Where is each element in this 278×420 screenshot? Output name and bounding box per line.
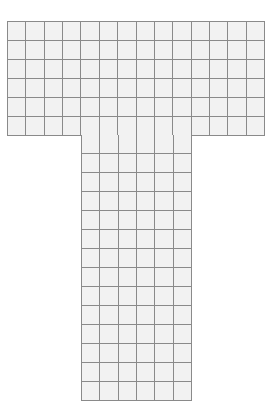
top-bar-cell	[100, 41, 118, 60]
stem-cell	[100, 287, 118, 306]
top-bar-cell	[45, 117, 63, 136]
stem-cell	[174, 287, 192, 306]
stem-cell	[119, 154, 137, 173]
top-bar-cell	[81, 79, 99, 98]
t-shape-stem-grid	[81, 135, 192, 401]
top-bar-cell	[45, 98, 63, 117]
stem-cell	[100, 363, 118, 382]
top-bar-cell	[63, 22, 81, 41]
top-bar-cell	[173, 60, 191, 79]
t-shape-top-bar-grid	[7, 21, 265, 136]
top-bar-cell	[8, 79, 26, 98]
top-bar-cell	[45, 41, 63, 60]
top-bar-cell	[210, 41, 228, 60]
top-bar-cell	[173, 79, 191, 98]
stem-cell	[100, 230, 118, 249]
top-bar-cell	[137, 60, 155, 79]
stem-cell	[155, 230, 173, 249]
stem-cell	[119, 135, 137, 154]
stem-cell	[137, 230, 155, 249]
top-bar-cell	[100, 79, 118, 98]
stem-cell	[100, 135, 118, 154]
stem-cell	[100, 173, 118, 192]
stem-cell	[137, 192, 155, 211]
stem-cell	[137, 363, 155, 382]
stem-cell	[100, 211, 118, 230]
stem-cell	[155, 287, 173, 306]
stem-cell	[174, 306, 192, 325]
stem-cell	[82, 268, 100, 287]
stem-cell	[155, 306, 173, 325]
top-bar-cell	[173, 117, 191, 136]
stem-cell	[119, 363, 137, 382]
top-bar-cell	[137, 79, 155, 98]
top-bar-cell	[192, 98, 210, 117]
top-bar-cell	[100, 22, 118, 41]
top-bar-cell	[192, 79, 210, 98]
stem-cell	[100, 344, 118, 363]
top-bar-cell	[137, 22, 155, 41]
top-bar-cell	[228, 79, 246, 98]
top-bar-cell	[192, 22, 210, 41]
top-bar-cell	[81, 60, 99, 79]
stem-cell	[119, 268, 137, 287]
stem-cell	[155, 173, 173, 192]
top-bar-cell	[100, 117, 118, 136]
stem-cell	[82, 287, 100, 306]
stem-cell	[174, 268, 192, 287]
top-bar-cell	[81, 98, 99, 117]
stem-cell	[137, 211, 155, 230]
top-bar-cell	[247, 98, 265, 117]
stem-cell	[174, 135, 192, 154]
stem-cell	[82, 135, 100, 154]
top-bar-cell	[118, 98, 136, 117]
stem-cell	[174, 173, 192, 192]
top-bar-cell	[228, 117, 246, 136]
stem-cell	[155, 268, 173, 287]
stem-cell	[137, 268, 155, 287]
top-bar-cell	[8, 41, 26, 60]
stem-cell	[100, 382, 118, 401]
top-bar-cell	[247, 41, 265, 60]
stem-cell	[82, 306, 100, 325]
stem-cell	[137, 249, 155, 268]
top-bar-cell	[247, 22, 265, 41]
stem-cell	[174, 325, 192, 344]
stem-cell	[100, 268, 118, 287]
top-bar-cell	[228, 60, 246, 79]
top-bar-cell	[118, 117, 136, 136]
top-bar-cell	[155, 117, 173, 136]
top-bar-cell	[118, 79, 136, 98]
stem-cell	[119, 249, 137, 268]
top-bar-cell	[100, 98, 118, 117]
stem-cell	[155, 363, 173, 382]
top-bar-cell	[8, 22, 26, 41]
top-bar-cell	[26, 60, 44, 79]
top-bar-cell	[210, 60, 228, 79]
stem-cell	[100, 325, 118, 344]
stem-cell	[137, 306, 155, 325]
stem-cell	[119, 325, 137, 344]
top-bar-cell	[63, 41, 81, 60]
stem-cell	[119, 192, 137, 211]
stem-cell	[137, 135, 155, 154]
stem-cell	[155, 344, 173, 363]
top-bar-cell	[228, 98, 246, 117]
top-bar-cell	[155, 41, 173, 60]
top-bar-cell	[173, 41, 191, 60]
top-bar-cell	[173, 22, 191, 41]
top-bar-cell	[26, 117, 44, 136]
top-bar-cell	[192, 41, 210, 60]
stem-cell	[82, 344, 100, 363]
stem-cell	[82, 211, 100, 230]
top-bar-cell	[63, 79, 81, 98]
top-bar-cell	[8, 60, 26, 79]
stem-cell	[82, 382, 100, 401]
top-bar-cell	[81, 22, 99, 41]
stem-cell	[82, 154, 100, 173]
top-bar-cell	[118, 41, 136, 60]
top-bar-cell	[247, 79, 265, 98]
stem-cell	[155, 249, 173, 268]
top-bar-cell	[26, 22, 44, 41]
stem-cell	[82, 173, 100, 192]
